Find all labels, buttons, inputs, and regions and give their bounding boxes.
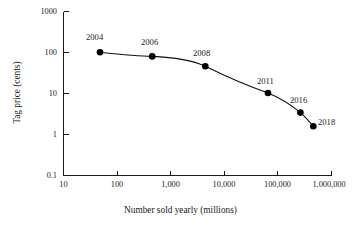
- y-tick-label-100: 100: [28, 48, 57, 56]
- x-tick-label-10000: 10,000: [213, 181, 236, 189]
- x-tick-label-100000: 100,000: [264, 181, 291, 189]
- y-tick-label-1000: 1000: [28, 7, 57, 15]
- series-markers: [97, 49, 317, 130]
- data-point-2011: [265, 90, 272, 97]
- point-annotation-2018: 2018: [318, 118, 335, 127]
- x-tick-label-1000: 1,000: [161, 181, 180, 189]
- y-tick-label-10: 10: [28, 89, 57, 97]
- point-annotation-2016: 2016: [290, 96, 307, 105]
- point-annotation-2011: 2011: [257, 77, 274, 86]
- y-tick-marks: [64, 12, 69, 176]
- x-tick-label-100: 100: [111, 181, 123, 189]
- point-annotation-2006: 2006: [141, 38, 158, 47]
- data-point-2016: [297, 109, 304, 116]
- point-annotation-2008: 2008: [193, 49, 210, 58]
- data-point-2018: [310, 123, 317, 130]
- x-tick-marks: [64, 171, 332, 176]
- y-tick-label-1: 1: [28, 130, 57, 138]
- data-point-2008: [202, 63, 209, 70]
- point-annotation-2004: 2004: [86, 33, 103, 42]
- y-tick-label-0-1: 0.1: [28, 171, 57, 179]
- x-tick-label-10: 10: [59, 181, 67, 189]
- data-point-2006: [149, 53, 156, 60]
- chart-container: 1000 100 10 1 0.1 10 100 1,000 10,000 10…: [0, 0, 361, 231]
- x-axis-title: Number sold yearly (millions): [0, 206, 361, 215]
- plot-area: [0, 0, 361, 231]
- data-point-2004: [97, 49, 104, 56]
- x-tick-label-1000000: 1,000,000: [312, 181, 345, 189]
- y-axis-title: Tag price (cents): [13, 38, 22, 148]
